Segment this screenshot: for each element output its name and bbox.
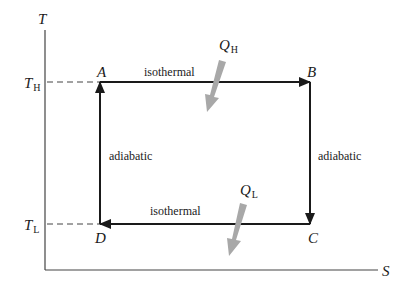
s-axis-label: S [382,264,390,279]
heat-out-arrow-icon [227,203,247,256]
right-process-label: adiabatic [318,150,361,162]
state-b-label: B [307,65,316,80]
ts-diagram: T S TH TL A B C D isothermal adiabatic i… [0,0,407,294]
left-process-label: adiabatic [109,150,152,162]
bottom-process-label: isothermal [150,205,201,217]
top-process-label: isothermal [144,66,195,78]
state-a-label: A [97,65,106,80]
tl-label: TL [24,217,39,233]
heat-in-arrow-icon [205,60,226,112]
state-c-label: C [308,231,318,246]
ql-label: QL [240,182,258,198]
state-d-label: D [95,231,106,246]
diagram-canvas [0,0,407,294]
t-axis-label: T [38,12,46,27]
th-label: TH [24,75,41,91]
qh-label: QH [219,37,238,53]
